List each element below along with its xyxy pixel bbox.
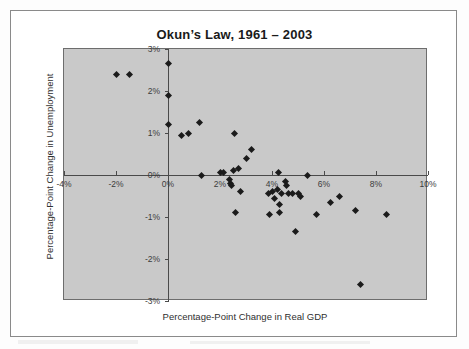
x-tick-label: 0% bbox=[162, 179, 174, 189]
x-tick-label: -2% bbox=[108, 179, 123, 189]
horizontal-zero-axis bbox=[64, 175, 428, 176]
y-axis-title: Percentage-Point Change in Unemployment bbox=[44, 41, 55, 293]
y-tick-label: 1% bbox=[126, 128, 160, 138]
scatter-point bbox=[198, 171, 205, 178]
scatter-point bbox=[232, 209, 239, 216]
x-tick-label: 2% bbox=[214, 179, 226, 189]
y-tick-mark bbox=[165, 301, 169, 302]
scatter-point bbox=[196, 119, 203, 126]
y-tick-mark bbox=[165, 49, 169, 50]
x-tick-label: -4% bbox=[56, 179, 71, 189]
scatter-point bbox=[278, 190, 285, 197]
x-tick-mark bbox=[376, 171, 377, 175]
x-tick-label: 10% bbox=[419, 179, 436, 189]
x-tick-mark bbox=[272, 171, 273, 175]
scatter-point bbox=[248, 146, 255, 153]
y-tick-label: 2% bbox=[126, 86, 160, 96]
scatter-point bbox=[297, 192, 304, 199]
y-tick-label: -2% bbox=[126, 254, 160, 264]
scatter-point bbox=[185, 129, 192, 136]
chart-figure: Okun’s Law, 1961 – 2003 -4%-2%0%2%4%6%8%… bbox=[0, 0, 469, 349]
scatter-point bbox=[276, 209, 283, 216]
scatter-point bbox=[229, 167, 236, 174]
y-tick-label: 3% bbox=[126, 44, 160, 54]
scatter-point bbox=[304, 171, 311, 178]
x-tick-mark bbox=[428, 171, 429, 175]
scatter-point bbox=[231, 129, 238, 136]
scatter-point bbox=[271, 195, 278, 202]
y-tick-mark bbox=[165, 133, 169, 134]
y-tick-label: -1% bbox=[126, 212, 160, 222]
chart-frame: Okun’s Law, 1961 – 2003 -4%-2%0%2%4%6%8%… bbox=[10, 10, 457, 337]
scatter-point bbox=[266, 211, 273, 218]
y-tick-mark bbox=[165, 175, 169, 176]
y-tick-mark bbox=[165, 217, 169, 218]
scan-artifact bbox=[18, 340, 138, 344]
x-tick-mark bbox=[116, 171, 117, 175]
scatter-point bbox=[352, 207, 359, 214]
scatter-point bbox=[357, 281, 364, 288]
scatter-point bbox=[313, 211, 320, 218]
scatter-point bbox=[164, 121, 171, 128]
x-axis-title: Percentage-Point Change in Real GDP bbox=[63, 311, 427, 322]
scatter-point bbox=[164, 92, 171, 99]
chart-title: Okun’s Law, 1961 – 2003 bbox=[11, 27, 458, 42]
scatter-point bbox=[237, 188, 244, 195]
scatter-point bbox=[164, 60, 171, 67]
x-tick-label: 6% bbox=[318, 179, 330, 189]
plot-area: -4%-2%0%2%4%6%8%10% 3%2%1%0%-1%-2%-3% bbox=[63, 48, 427, 300]
scatter-point bbox=[177, 132, 184, 139]
scatter-point bbox=[283, 182, 290, 189]
y-tick-label: 0% bbox=[126, 170, 160, 180]
y-tick-mark bbox=[165, 259, 169, 260]
scatter-point bbox=[327, 199, 334, 206]
scatter-point bbox=[125, 71, 132, 78]
scatter-point bbox=[383, 211, 390, 218]
scatter-point bbox=[276, 201, 283, 208]
scatter-point bbox=[336, 192, 343, 199]
x-tick-label: 8% bbox=[370, 179, 382, 189]
y-tick-label: -3% bbox=[126, 296, 160, 306]
x-tick-mark bbox=[64, 171, 65, 175]
scatter-point bbox=[242, 155, 249, 162]
scatter-point bbox=[265, 190, 272, 197]
scan-artifact bbox=[190, 341, 370, 344]
scatter-point bbox=[292, 228, 299, 235]
x-tick-mark bbox=[324, 171, 325, 175]
scatter-point bbox=[112, 71, 119, 78]
